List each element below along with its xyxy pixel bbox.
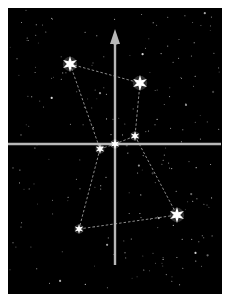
background-star: [194, 252, 196, 254]
background-star: [200, 139, 201, 140]
background-star: [204, 12, 206, 14]
background-star: [176, 191, 177, 192]
background-star: [169, 96, 170, 97]
background-star: [137, 172, 138, 173]
background-star: [157, 216, 158, 217]
background-star: [108, 237, 109, 238]
background-star: [188, 161, 189, 162]
background-star: [125, 257, 126, 258]
background-star: [210, 25, 211, 26]
background-star: [201, 266, 202, 267]
background-star: [210, 164, 211, 165]
background-star: [127, 152, 128, 153]
background-star: [45, 31, 46, 32]
background-star: [184, 15, 185, 16]
background-star: [176, 257, 177, 258]
background-star: [106, 118, 107, 119]
background-star: [212, 91, 214, 93]
background-star: [137, 276, 138, 277]
background-star: [207, 254, 209, 256]
background-star: [142, 255, 143, 256]
background-star: [61, 79, 62, 80]
background-star: [164, 155, 165, 156]
background-star: [173, 225, 174, 226]
background-star: [76, 91, 77, 92]
background-star: [173, 62, 174, 63]
background-star: [200, 115, 201, 116]
background-star: [208, 207, 209, 208]
background-star: [152, 253, 153, 254]
background-star: [36, 268, 37, 269]
background-star: [163, 259, 164, 260]
background-star: [157, 89, 158, 90]
background-star: [51, 78, 52, 79]
background-star: [141, 14, 142, 15]
background-star: [124, 123, 125, 124]
background-star: [19, 182, 20, 183]
background-star: [195, 167, 196, 168]
background-star: [193, 86, 194, 87]
background-star: [179, 284, 180, 285]
background-star: [167, 46, 168, 47]
background-star: [94, 266, 95, 267]
background-star: [124, 252, 125, 253]
background-star: [213, 53, 214, 54]
background-star: [149, 72, 150, 73]
background-star: [132, 278, 133, 279]
background-star: [26, 40, 27, 41]
background-star: [210, 30, 211, 31]
background-star: [195, 261, 196, 262]
background-star: [10, 47, 11, 48]
background-star: [103, 56, 104, 57]
background-star: [91, 107, 92, 108]
background-star: [190, 193, 192, 195]
background-star: [21, 22, 22, 23]
background-star: [139, 213, 140, 214]
background-star: [207, 121, 208, 122]
background-star: [29, 188, 30, 189]
background-star: [195, 76, 196, 77]
background-star: [52, 213, 53, 214]
background-star: [149, 270, 150, 271]
background-star: [35, 35, 36, 36]
background-star: [218, 129, 219, 130]
background-star: [157, 227, 158, 228]
background-star: [196, 198, 197, 199]
background-star: [76, 179, 77, 180]
background-star: [153, 22, 154, 23]
background-star: [36, 24, 37, 25]
background-star: [27, 38, 28, 39]
background-star: [67, 200, 68, 201]
background-star: [219, 71, 220, 72]
background-star: [79, 188, 80, 189]
background-star: [129, 55, 130, 56]
background-star: [203, 204, 204, 205]
background-star: [212, 235, 213, 236]
background-star: [131, 238, 132, 239]
background-star: [145, 48, 146, 49]
background-star: [148, 38, 149, 39]
background-star: [21, 222, 22, 223]
background-star: [87, 98, 88, 99]
background-star: [192, 201, 193, 202]
background-star: [20, 226, 21, 227]
background-star: [19, 170, 20, 171]
background-star: [91, 65, 92, 66]
background-star: [65, 72, 66, 73]
background-star: [182, 129, 183, 130]
background-star: [39, 101, 40, 102]
background-star: [145, 131, 146, 132]
background-star: [94, 187, 95, 188]
background-star: [59, 280, 61, 282]
background-star: [103, 87, 104, 88]
background-star: [62, 251, 63, 252]
background-star: [169, 87, 170, 88]
background-star: [178, 58, 179, 59]
background-star: [95, 89, 96, 90]
background-star: [162, 265, 163, 266]
background-star: [26, 124, 27, 125]
background-star: [112, 119, 113, 120]
background-star: [15, 247, 16, 248]
background-star: [92, 62, 93, 63]
background-star: [169, 168, 170, 169]
